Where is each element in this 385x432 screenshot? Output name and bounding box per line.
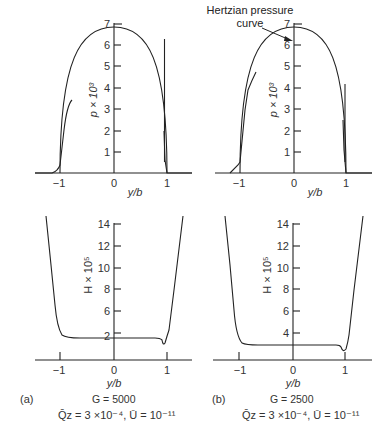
svg-text:5: 5 [284,60,290,72]
y-axis-label: H × 10⁵ [261,256,273,293]
svg-text:14: 14 [277,218,289,230]
panel-b-g-value: G = 2500 [270,393,314,405]
panel-b-film-ticks: 14 12 10 8 6 4 2 −1 0 1 y/b H × 10⁵ [234,218,348,389]
svg-text:1: 1 [342,364,348,376]
svg-text:2: 2 [284,125,290,137]
panel-a-pressure-plot [35,23,192,173]
pressure-curve-exit [164,131,192,173]
svg-text:4: 4 [283,327,289,339]
panel-a-params: Q̄z = 3 ×10⁻⁴, Ū = 10⁻¹¹ [58,409,175,422]
panel-b-params: Q̄z = 3 ×10⁻⁴, Ū = 10⁻¹¹ [242,409,359,422]
y-axis-label: p × 10³ [267,82,279,118]
panel-b-pressure-plot [215,23,372,173]
svg-text:6: 6 [104,39,110,51]
svg-text:−1: −1 [233,177,246,189]
svg-text:4: 4 [104,82,110,94]
svg-text:7: 7 [104,18,110,30]
annotation-line-1: Hertzian pressure [200,4,300,17]
svg-text:10: 10 [277,262,289,274]
y-axis-label: p × 10³ [87,82,99,118]
svg-text:0: 0 [111,364,117,376]
pressure-curve [35,100,72,173]
svg-text:1: 1 [104,146,110,158]
pressure-curve [230,72,256,173]
panel-b-film-plot [213,216,372,360]
annotation-line-2: curve [200,17,300,30]
svg-text:0: 0 [111,177,117,189]
panel-a-label: (a) [20,393,33,405]
panel-a-g-value: G = 5000 [92,393,136,405]
panel-b-pressure-ticks: 7 6 5 4 3 2 1 −1 0 1 y/b p × 10³ [233,18,349,198]
panel-b-label: (b) [212,393,225,405]
svg-text:−1: −1 [53,177,66,189]
svg-text:1: 1 [343,177,349,189]
svg-text:12: 12 [98,240,110,252]
svg-text:6: 6 [104,305,110,317]
svg-text:3: 3 [104,103,110,115]
svg-text:6: 6 [284,39,290,51]
svg-text:0: 0 [291,177,297,189]
svg-text:6: 6 [283,305,289,317]
y-axis-label: H × 10⁵ [82,256,94,293]
svg-text:14: 14 [98,218,110,230]
svg-text:12: 12 [277,240,289,252]
svg-text:0: 0 [290,364,296,376]
x-axis-label: y/b [127,186,143,198]
svg-text:3: 3 [284,103,290,115]
svg-text:2: 2 [104,125,110,137]
panel-a-film-ticks: 14 12 10 8 6 2 −1 0 1 y/b H × 10⁵ [53,218,170,389]
svg-text:10: 10 [98,262,110,274]
film-thickness-curve [225,216,363,351]
svg-text:8: 8 [283,283,289,295]
svg-text:1: 1 [164,177,170,189]
svg-text:−1: −1 [234,364,247,376]
svg-text:8: 8 [104,283,110,295]
svg-text:4: 4 [284,82,290,94]
panel-a-pressure-ticks: 7 6 5 4 3 2 1 −1 0 1 y/b p × 10³ [53,18,170,198]
x-axis-label: y/b [106,377,122,389]
x-axis-label: y/b [285,377,301,389]
hertzian-curve [240,27,346,173]
hertzian-annotation: Hertzian pressure curve [200,4,300,30]
svg-text:1: 1 [284,146,290,158]
figure-canvas: 7 6 5 4 3 2 1 −1 0 1 y/b p × 10³ 7 6 5 4 [0,0,385,432]
x-axis-label: y/b [307,186,323,198]
panel-a-film-plot [35,216,192,360]
pressure-curve-exit [343,120,372,173]
svg-text:1: 1 [164,364,170,376]
svg-text:−1: −1 [53,364,66,376]
svg-text:5: 5 [104,60,110,72]
svg-text:2: 2 [104,330,110,342]
